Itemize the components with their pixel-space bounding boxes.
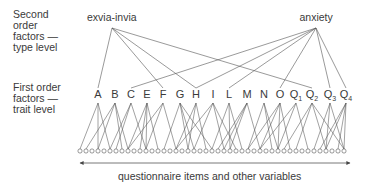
factor-diagram	[0, 0, 365, 187]
item-links	[80, 103, 346, 149]
items-caption: questionnaire items and other variables	[118, 170, 301, 182]
questionnaire-items	[78, 149, 346, 153]
second-order-links	[98, 28, 346, 88]
